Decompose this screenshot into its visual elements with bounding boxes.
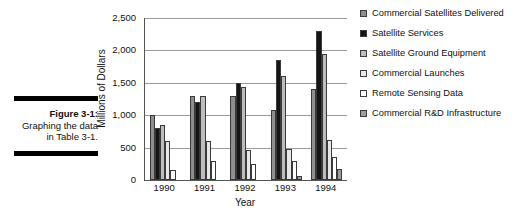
legend-label: Remote Sensing Data xyxy=(372,88,463,99)
legend-swatch-icon xyxy=(360,10,367,17)
caption-body: Graphing the data in Table 3-1. xyxy=(22,120,98,143)
bar-group xyxy=(230,18,261,180)
y-tick-label: 0 xyxy=(131,175,136,185)
legend-swatch-icon xyxy=(360,70,367,77)
legend-item[interactable]: Commercial R&D Infrastructure xyxy=(360,108,508,119)
caption-rule-bottom xyxy=(14,151,98,156)
bar-group xyxy=(311,18,342,180)
bar-groups xyxy=(145,18,347,180)
caption-text: Figure 3-1: Graphing the data in Table 3… xyxy=(14,108,98,143)
legend-label: Satellite Ground Equipment xyxy=(372,48,486,59)
y-tick-label: 1,500 xyxy=(112,78,136,88)
figure-caption: Figure 3-1: Graphing the data in Table 3… xyxy=(14,96,98,156)
legend-swatch-icon xyxy=(360,90,367,97)
caption-rule-top xyxy=(14,96,98,101)
chart-legend: Commercial Satellites DeliveredSatellite… xyxy=(360,8,508,128)
figure-page: Figure 3-1: Graphing the data in Table 3… xyxy=(0,0,512,217)
legend-label: Commercial R&D Infrastructure xyxy=(372,108,501,119)
legend-swatch-icon xyxy=(360,50,367,57)
bar-group xyxy=(190,18,221,180)
y-tick-label: 1,000 xyxy=(112,110,136,120)
legend-item[interactable]: Commercial Satellites Delivered xyxy=(360,8,508,19)
legend-swatch-icon xyxy=(360,30,367,37)
y-tick-label: 500 xyxy=(120,143,136,153)
legend-label: Commercial Satellites Delivered xyxy=(372,8,504,19)
bar[interactable] xyxy=(251,164,256,180)
y-axis-ticks: 05001,0001,5002,0002,500 xyxy=(106,18,140,180)
bar[interactable] xyxy=(297,176,302,180)
y-tick-label: 2,500 xyxy=(112,13,136,23)
legend-item[interactable]: Satellite Ground Equipment xyxy=(360,48,508,59)
bar[interactable] xyxy=(170,170,175,180)
legend-item[interactable]: Commercial Launches xyxy=(360,68,508,79)
bar-group xyxy=(271,18,302,180)
legend-item[interactable]: Remote Sensing Data xyxy=(360,88,508,99)
x-tick-label: 1993 xyxy=(265,182,305,196)
caption-title: Figure 3-1: xyxy=(14,108,98,120)
bar[interactable] xyxy=(211,161,216,180)
x-tick-label: 1991 xyxy=(185,182,225,196)
legend-swatch-icon xyxy=(360,110,367,117)
x-tick-label: 1994 xyxy=(306,182,346,196)
x-axis-ticks: 19901991199219931994 xyxy=(144,182,346,196)
bar[interactable] xyxy=(337,169,342,180)
bar-group xyxy=(150,18,181,180)
legend-label: Commercial Launches xyxy=(372,68,465,79)
legend-item[interactable]: Satellite Services xyxy=(360,28,508,39)
bar-chart: Millions of Dollars 05001,0001,5002,0002… xyxy=(96,8,354,208)
x-axis-title: Year xyxy=(144,197,346,208)
plot-area xyxy=(144,18,347,181)
legend-label: Satellite Services xyxy=(372,28,443,39)
x-tick-label: 1992 xyxy=(225,182,265,196)
y-tick-label: 2,000 xyxy=(112,46,136,56)
x-tick-label: 1990 xyxy=(144,182,184,196)
